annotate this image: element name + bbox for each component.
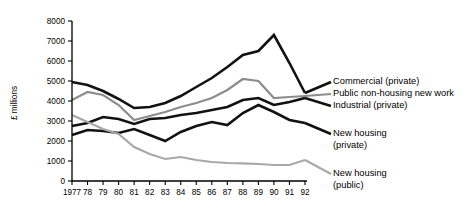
x-tick-label: 85 [192,188,202,197]
y-tick-label: 6000 [47,57,66,66]
legend-label-commercial-private: Commercial (private) [333,76,419,86]
series-line-industrial-private [72,98,305,126]
y-tick-label: 2000 [47,137,66,146]
series-line-new-housing-private [72,105,305,141]
series-group [72,35,331,174]
legend-label-industrial-private: Industrial (private) [333,100,407,110]
y-tick-label: 8000 [47,17,66,26]
x-tick-label: 87 [223,188,233,197]
x-tick-label: 88 [238,188,248,197]
legend-label-new-housing-public-sub: (public) [333,180,363,190]
legend-leader-line [305,82,331,93]
chart-container: 010002000300040005000600070008000 197778… [0,0,476,216]
y-tick-label: 5000 [47,77,66,86]
y-tick-label: 3000 [47,117,66,126]
legend-label-public-non-housing-new-work: Public non-housing new work [333,88,454,98]
legend-leader-line [305,123,331,134]
y-axis-tick-labels: 010002000300040005000600070008000 [47,17,66,186]
x-axis-tick-labels: 1977787980818283848586878889909192 [63,188,310,197]
x-tick-label: 86 [207,188,217,197]
y-tick-label: 4000 [47,97,66,106]
x-tick-label: 92 [300,188,310,197]
legend-label-new-housing-private: New housing [333,128,387,138]
x-tick-label: 83 [161,188,171,197]
chart-legend: Commercial (private) Public non-housing … [333,76,454,190]
x-tick-label: 1977 [63,188,82,197]
x-tick-label: 80 [114,188,124,197]
line-chart: 010002000300040005000600070008000 197778… [0,0,476,216]
y-axis-title: £ millions [10,86,19,120]
x-tick-label: 89 [254,188,264,197]
legend-label-new-housing-public: New housing [333,168,387,178]
series-line-new-housing-public [72,115,305,165]
x-tick-label: 91 [285,188,295,197]
x-tick-label: 81 [130,188,140,197]
legend-leader-line [305,98,331,106]
x-tick-label: 82 [145,188,155,197]
x-tick-label: 78 [83,188,93,197]
y-tick-label: 1000 [47,157,66,166]
y-tick-label: 7000 [47,37,66,46]
x-tick-label: 79 [99,188,109,197]
legend-leader-line [305,94,331,96]
y-tick-label: 0 [60,177,65,186]
x-tick-label: 90 [269,188,279,197]
legend-leader-line [305,160,331,174]
x-tick-label: 84 [176,188,186,197]
legend-label-new-housing-private-sub: (private) [333,140,367,150]
axis-lines [72,21,307,181]
